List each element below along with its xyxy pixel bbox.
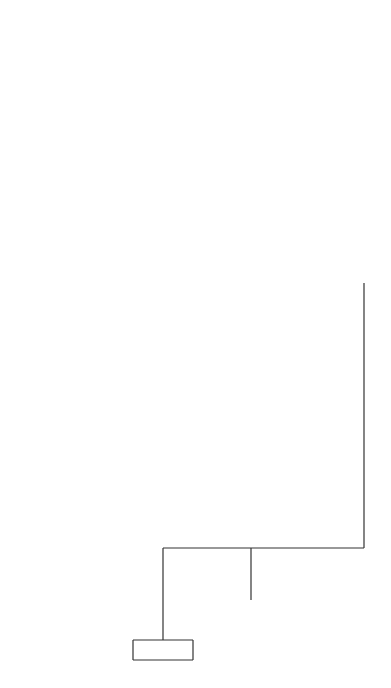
aid-tree-diagram [0,0,391,688]
tree-lines [0,0,391,688]
